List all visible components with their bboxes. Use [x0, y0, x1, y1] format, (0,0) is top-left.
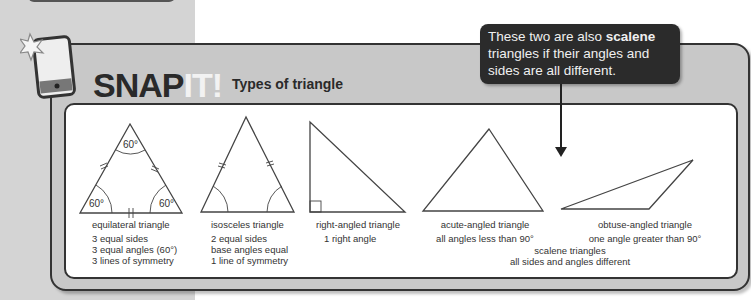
callout-text-1: These two are also [488, 29, 606, 44]
angle-label-top: 60° [123, 139, 138, 150]
triangle-property: 3 lines of symmetry [92, 255, 177, 266]
triangle-property: 3 equal sides [92, 233, 177, 244]
triangle-property: 3 equal angles (60°) [92, 244, 177, 255]
triangle-name: isosceles triangle [211, 219, 288, 230]
angle-label-left: 60° [89, 198, 104, 209]
triangle-property: base angles equal [211, 244, 288, 255]
isosceles-label: isosceles triangle 2 equal sides base an… [211, 219, 288, 266]
acute-angled-triangle-shape [423, 129, 543, 211]
equilateral-label: equilateral triangle 3 equal sides 3 equ… [92, 219, 177, 266]
triangle-name: acute-angled triangle [420, 219, 550, 230]
scalene-title: scalene triangles [490, 245, 650, 256]
callout-arrow-line [560, 84, 562, 150]
triangle-property: one angle greater than 90° [575, 233, 715, 244]
scalene-callout: These two are also scalene triangles if … [480, 24, 680, 84]
right-angled-triangle-shape [310, 122, 405, 212]
acute-angled-label: acute-angled triangle all angles less th… [420, 219, 550, 244]
triangle-property: all angles less than 90° [420, 233, 550, 244]
triangle-name: equilateral triangle [92, 219, 177, 230]
callout-text-2: triangles if their angles and sides are … [488, 46, 649, 78]
obtuse-angled-label: obtuse-angled triangle one angle greater… [575, 219, 715, 244]
scalene-desc: all sides and angles different [490, 256, 650, 267]
scalene-note: scalene triangles all sides and angles d… [490, 245, 650, 267]
isosceles-triangle-shape [201, 117, 294, 212]
obtuse-angled-triangle-shape [561, 160, 693, 209]
triangle-property: 2 equal sides [211, 233, 288, 244]
triangle-name: obtuse-angled triangle [575, 219, 715, 230]
arrow-down-icon [555, 147, 567, 157]
triangle-name: right-angled triangle [316, 219, 400, 230]
right-angled-label: right-angled triangle 1 right angle [316, 219, 400, 244]
triangle-property: 1 right angle [316, 233, 400, 244]
angle-label-right: 60° [159, 198, 174, 209]
callout-bold-text: scalene [606, 29, 656, 44]
triangle-property: 1 line of symmetry [211, 255, 288, 266]
